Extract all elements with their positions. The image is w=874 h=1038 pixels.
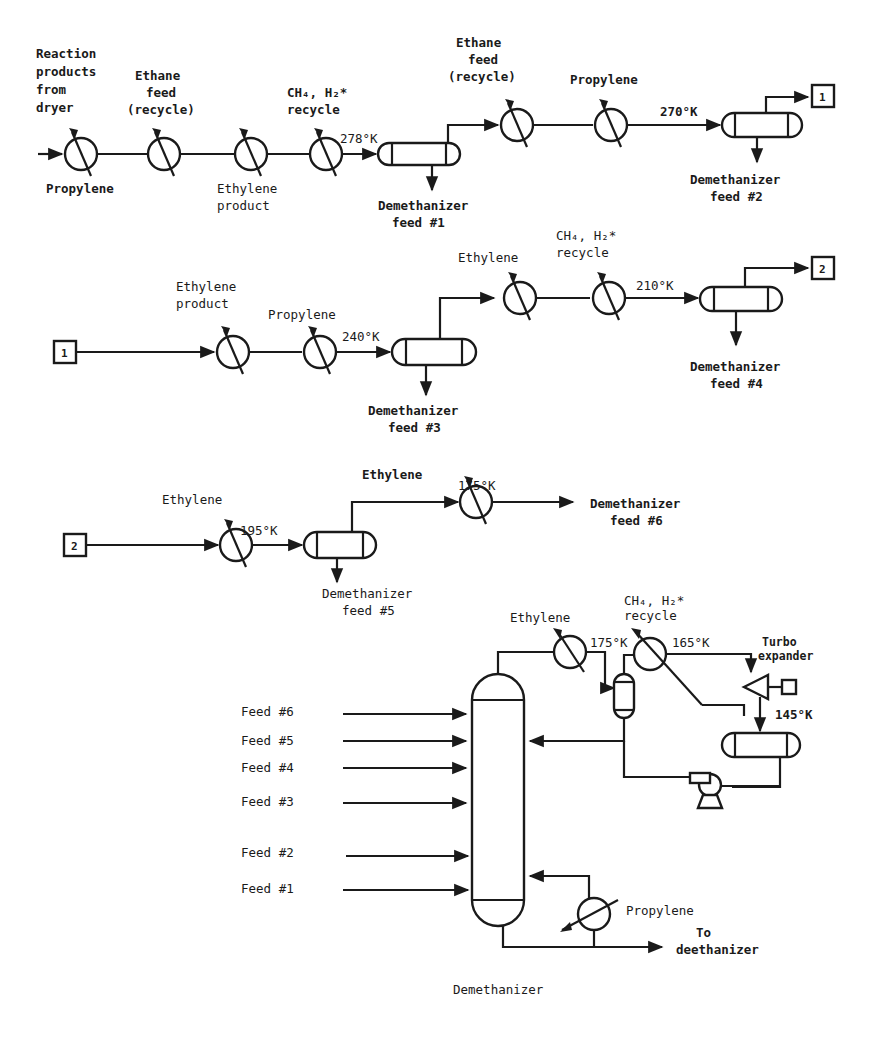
connector-label: 2 bbox=[819, 263, 826, 276]
row-1: Reaction products from dryer Propylene E… bbox=[36, 35, 834, 230]
hx-label: CH₄, H₂* recycle bbox=[624, 593, 692, 623]
expander-label: Turbo expander bbox=[758, 635, 813, 663]
drum-label: Demethanizer feed #5 bbox=[322, 586, 420, 618]
hx-label: CH₄, H₂* recycle bbox=[287, 85, 355, 117]
reflux-pump bbox=[690, 773, 722, 808]
connector-label: 1 bbox=[819, 91, 826, 104]
feed-label: Feed #6 bbox=[241, 704, 294, 719]
heat-exchanger-ch4-h2-recycle bbox=[593, 272, 625, 320]
outlet-label: Demethanizer feed #6 bbox=[590, 496, 688, 528]
drum-label: Demethanizer feed #3 bbox=[368, 403, 466, 435]
hx-label: Ethylene bbox=[510, 610, 570, 625]
demethanizer-section: Feed #6 Feed #5 Feed #4 Feed #3 Feed #2 … bbox=[241, 593, 813, 997]
reflux-separator bbox=[614, 674, 634, 718]
temperature-label: 240°K bbox=[342, 329, 380, 344]
feed-inlets: Feed #6 Feed #5 Feed #4 Feed #3 Feed #2 … bbox=[241, 704, 468, 896]
cold-separator-drum bbox=[722, 733, 800, 757]
feed-label: Feed #4 bbox=[241, 760, 294, 775]
temperature-label: 210°K bbox=[636, 278, 674, 293]
drum-label: Demethanizer feed #1 bbox=[378, 198, 476, 230]
heat-exchanger-ethane-recycle bbox=[148, 128, 180, 176]
temperature-label: 278°K bbox=[340, 131, 378, 146]
hx-label: Ethylene bbox=[362, 467, 423, 482]
heat-exchanger-ethylene-product bbox=[235, 128, 267, 176]
hx-label: Propylene bbox=[46, 181, 114, 196]
hx-label: Ethane feed (recycle) bbox=[127, 68, 195, 117]
heat-exchanger-ethylene bbox=[504, 272, 536, 320]
expander-load bbox=[782, 680, 796, 694]
temperature-label: 175°K bbox=[458, 478, 496, 493]
process-flow-diagram: Reaction products from dryer Propylene E… bbox=[0, 0, 874, 1038]
heat-exchanger-ethane-recycle-2 bbox=[501, 99, 533, 147]
feed-label: Feed #3 bbox=[241, 794, 294, 809]
heat-exchanger-ch4-h2-recycle bbox=[310, 128, 342, 176]
connector-label: 2 bbox=[71, 540, 78, 553]
row-3: 2 Ethylene 195°K Demethanizer feed #5 Et… bbox=[64, 467, 688, 618]
hx-label: CH₄, H₂* recycle bbox=[556, 228, 624, 260]
temperature-label: 270°K bbox=[660, 104, 698, 119]
demethanizer-column bbox=[472, 674, 524, 926]
heat-exchanger-ethylene-product bbox=[217, 326, 249, 374]
bottoms-label: To deethanizer bbox=[676, 925, 759, 957]
inlet-label: Reaction products from dryer bbox=[36, 46, 104, 115]
heat-exchanger-propylene bbox=[65, 128, 97, 176]
feed-label: Feed #2 bbox=[241, 845, 294, 860]
flash-drum-4 bbox=[700, 287, 782, 311]
diagram-caption: Demethanizer bbox=[453, 982, 544, 997]
temperature-label: 165°K bbox=[672, 635, 710, 650]
hx-label: Propylene bbox=[626, 903, 694, 918]
temperature-label: 175°K bbox=[590, 635, 628, 650]
drum-label: Demethanizer feed #4 bbox=[690, 359, 788, 391]
hx-label: Ethane feed (recycle) bbox=[448, 35, 516, 84]
heat-exchanger-propylene-2 bbox=[595, 99, 627, 147]
hx-label: Propylene bbox=[268, 307, 336, 322]
hx-label: Ethylene bbox=[162, 492, 222, 507]
heat-exchanger-ch4-h2-recycle bbox=[634, 638, 666, 670]
hx-label: Ethylene bbox=[458, 250, 518, 265]
turbo-expander bbox=[744, 675, 768, 699]
feed-label: Feed #1 bbox=[241, 881, 294, 896]
flash-drum-1 bbox=[378, 143, 460, 165]
connector-label: 1 bbox=[61, 347, 68, 360]
drum-label: Demethanizer feed #2 bbox=[690, 172, 788, 204]
hx-label: Ethylene product bbox=[176, 279, 244, 311]
heat-exchanger-propylene bbox=[304, 326, 336, 374]
hx-label: Ethylene product bbox=[217, 181, 285, 213]
flash-drum-3 bbox=[392, 339, 476, 365]
hx-label: Propylene bbox=[570, 72, 638, 87]
feed-label: Feed #5 bbox=[241, 733, 294, 748]
row-2: 1 Ethylene product Propylene 240°K Demet… bbox=[54, 228, 834, 435]
temperature-label: 145°K bbox=[775, 707, 813, 722]
flash-drum-5 bbox=[304, 532, 376, 558]
temperature-label: 195°K bbox=[240, 523, 278, 538]
